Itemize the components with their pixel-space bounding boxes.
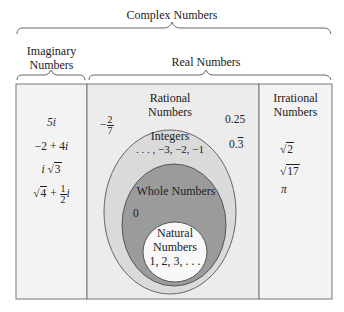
decimal-part: 0. [229,138,238,150]
imaginary-numbers-label: Imaginary Numbers [16,44,87,72]
example-i: i [67,187,70,199]
fraction: 27 [107,115,114,136]
sqrt-icon: √2 [280,143,294,155]
example-i: i [65,140,68,152]
sqrt-icon: √17 [280,165,300,177]
irrational-example-sqrt2: √2 [280,143,294,155]
rational-example-0-25: 0.25 [225,113,245,125]
natural-numbers-label: Natural Numbers 1, 2, 3, . . . [143,226,207,268]
repeating-digit: 3 [238,138,244,150]
whole-example-0: 0 [133,207,139,219]
rational-example-0-3-repeating: 0.3 [229,138,243,150]
natural-label-line2: Numbers [143,240,207,254]
imaginary-label-line2: Numbers [16,58,87,72]
irrational-example-sqrt17: √17 [280,165,300,177]
fraction: 12 [60,184,67,205]
imaginary-label-line1: Imaginary [16,44,87,58]
complex-numbers-label: Complex Numbers [0,8,344,22]
sqrt-icon: √3 [48,163,62,175]
example-text: −2 + 4 [35,140,65,152]
irrational-label-line2: Numbers [259,105,332,119]
rational-label-line1: Rational [140,91,200,105]
real-numbers-label: Real Numbers [150,55,262,69]
plus: + [47,187,59,199]
integers-examples: . . . , −3, −2, −1 [120,142,220,156]
whole-numbers-label: Whole Numbers [124,184,228,198]
imaginary-example-i-sqrt3: i √3 [16,163,87,175]
irrational-example-pi: π [281,183,287,195]
rational-label-line2: Numbers [140,105,200,119]
denominator: 2 [60,195,67,205]
imaginary-example-neg2-plus-4i: −2 + 4i [16,140,87,152]
sqrt-icon: √4 [33,187,47,199]
example-i: i [41,163,44,175]
rational-example-neg-2-7: −27 [100,115,114,136]
integers-label: Integers [130,129,210,143]
radicand: 3 [54,162,62,175]
irrational-numbers-label: Irrational Numbers [259,91,332,119]
rational-numbers-label: Rational Numbers [140,91,200,119]
real-brace [89,70,331,80]
imaginary-example-5i: 5i [16,116,87,128]
irrational-label-line1: Irrational [259,91,332,105]
natural-label-line1: Natural [143,226,207,240]
radicand: 2 [286,142,294,155]
radicand: 17 [286,164,300,177]
imaginary-example-sqrt4-plus-half-i: √4 + 12i [16,184,87,205]
complex-brace [17,22,331,34]
natural-examples: 1, 2, 3, . . . [143,254,207,268]
denominator: 7 [107,126,114,136]
